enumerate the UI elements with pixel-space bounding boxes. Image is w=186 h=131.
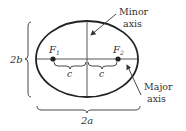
major-axis-label-line1: Major bbox=[144, 81, 173, 92]
left-c-label: c bbox=[67, 69, 72, 79]
width-brace bbox=[37, 106, 140, 113]
right-c-brace bbox=[88, 62, 117, 69]
right-c-label: c bbox=[99, 69, 104, 79]
focus-1-dot bbox=[50, 56, 55, 61]
left-c-brace bbox=[54, 62, 86, 69]
width-label-2a: 2a bbox=[80, 115, 93, 126]
minor-axis-label-line1: Minor bbox=[119, 6, 149, 17]
ellipse-diagram: F1 F2 c c 2b 2a Minor axis Major axis bbox=[0, 0, 186, 131]
major-axis-label-line2: axis bbox=[147, 93, 166, 104]
minor-axis-pointer bbox=[91, 14, 116, 35]
focus-2-label: F2 bbox=[112, 44, 124, 56]
minor-axis-label-line2: axis bbox=[123, 18, 142, 29]
focus-1-label: F1 bbox=[48, 44, 60, 56]
focus-2-dot bbox=[115, 56, 120, 61]
height-brace bbox=[25, 22, 31, 97]
height-label-2b: 2b bbox=[9, 54, 23, 65]
